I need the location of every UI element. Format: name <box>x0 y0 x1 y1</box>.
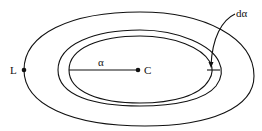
label-l: L <box>10 64 17 76</box>
label-d-alpha: dα <box>236 7 248 19</box>
middle-ellipse <box>58 30 221 106</box>
point-l <box>22 68 27 73</box>
diagram-canvas: L α C dα <box>0 0 262 131</box>
point-c <box>136 68 141 73</box>
label-c: C <box>144 64 151 76</box>
d-alpha-leader <box>211 14 235 66</box>
label-alpha: α <box>98 56 104 68</box>
arrowhead-icon <box>209 62 214 68</box>
